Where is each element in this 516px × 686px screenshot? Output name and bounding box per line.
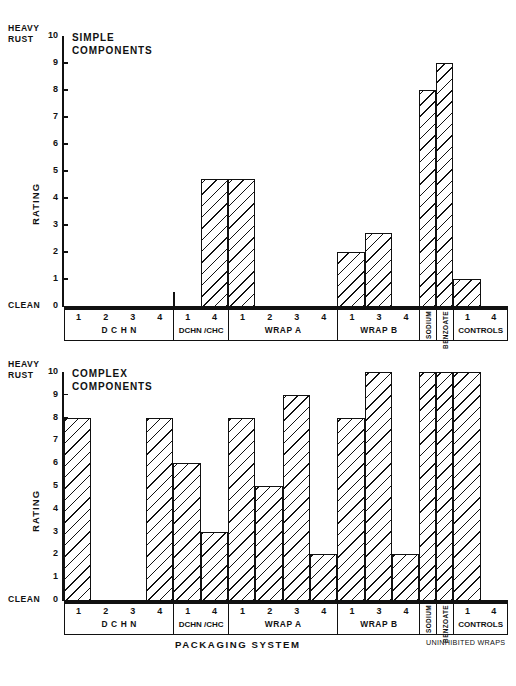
category-number: 2 bbox=[92, 604, 119, 618]
category-number: 4 bbox=[146, 604, 173, 618]
bar bbox=[310, 554, 337, 601]
category-number: 3 bbox=[119, 604, 146, 618]
y-tick-label: 8 bbox=[42, 412, 58, 422]
category-numbers-row: 134 bbox=[338, 604, 419, 618]
x-axis-category-table: 1234D C H N14DCHN /CHC1234WRAP A134WRAP … bbox=[64, 603, 508, 635]
category-group-label: DCHN /CHC bbox=[174, 618, 228, 634]
panel-title: COMPLEXCOMPONENTS bbox=[72, 368, 153, 393]
y-tick-label: 9 bbox=[42, 389, 58, 399]
category-group-label: CONTROLS bbox=[454, 618, 507, 634]
category-group-wrapb: 134WRAP B bbox=[337, 603, 419, 635]
panel-title-line-1: COMPLEX bbox=[72, 368, 153, 381]
category-numbers-row: 1234 bbox=[229, 604, 337, 618]
category-number: 4 bbox=[481, 604, 507, 618]
category-group-label: WRAP B bbox=[338, 618, 419, 634]
y-tick-label: 10 bbox=[42, 366, 58, 376]
bar bbox=[283, 395, 310, 602]
bar bbox=[173, 463, 200, 601]
bar bbox=[436, 372, 453, 601]
category-number: 1 bbox=[65, 604, 92, 618]
category-numbers-row: 14 bbox=[174, 604, 228, 618]
rust-text: RUST bbox=[8, 370, 39, 381]
y-tick-label: 2 bbox=[42, 548, 58, 558]
y-tick-label: 5 bbox=[42, 480, 58, 490]
category-group-label: WRAP A bbox=[229, 618, 337, 634]
bar bbox=[255, 486, 282, 601]
y-tick-label: 6 bbox=[42, 457, 58, 467]
chart-panel-complex: 109876543210HEAVYRUSTCLEANRATINGCOMPLEXC… bbox=[0, 0, 516, 686]
y-axis-label: RATING bbox=[30, 489, 41, 531]
bar bbox=[201, 532, 228, 602]
category-number: 3 bbox=[283, 604, 310, 618]
category-numbers-row: 14 bbox=[454, 604, 507, 618]
uninhibited-wraps-note: UNINHIBITED WRAPS bbox=[421, 638, 510, 647]
bar bbox=[64, 418, 91, 602]
y-tick-label: 7 bbox=[42, 434, 58, 444]
x-axis-title: PACKAGING SYSTEM bbox=[175, 639, 301, 650]
category-group-label: SODIUM bbox=[424, 604, 433, 634]
category-number: 4 bbox=[310, 604, 337, 618]
y-tick-label: 1 bbox=[42, 571, 58, 581]
bar bbox=[228, 418, 255, 602]
category-number: 4 bbox=[201, 604, 228, 618]
bar bbox=[453, 372, 480, 601]
category-group-dchn: 1234D C H N bbox=[64, 603, 173, 635]
category-numbers-row: 1234 bbox=[65, 604, 173, 618]
category-group-dchnchc: 14DCHN /CHC bbox=[173, 603, 228, 635]
y-axis-top-annotation: HEAVYRUST bbox=[8, 359, 39, 380]
category-number: 1 bbox=[229, 604, 256, 618]
category-number: 1 bbox=[174, 604, 201, 618]
y-tick-label: 0 bbox=[42, 594, 58, 604]
category-group-sodium: SODIUM bbox=[419, 603, 436, 635]
y-tick bbox=[64, 394, 68, 395]
category-number: 2 bbox=[256, 604, 283, 618]
category-number: 1 bbox=[454, 604, 480, 618]
bar bbox=[392, 554, 419, 601]
bar bbox=[419, 372, 436, 601]
category-group-benzoate: BENZOATE bbox=[436, 603, 453, 635]
category-number: 3 bbox=[365, 604, 392, 618]
bar bbox=[337, 418, 364, 602]
category-number: 4 bbox=[392, 604, 419, 618]
y-axis-bottom-annotation: CLEAN bbox=[8, 594, 40, 604]
category-group-label: D C H N bbox=[65, 618, 173, 634]
panel-title-line-2: COMPONENTS bbox=[72, 381, 153, 394]
y-tick-label: 3 bbox=[42, 526, 58, 536]
heavy-text: HEAVY bbox=[8, 359, 39, 370]
category-group-wrapa: 1234WRAP A bbox=[228, 603, 337, 635]
bar bbox=[146, 418, 173, 602]
bar bbox=[365, 372, 392, 601]
y-tick-label: 4 bbox=[42, 503, 58, 513]
category-number: 1 bbox=[338, 604, 365, 618]
category-group-controls: 14CONTROLS bbox=[453, 603, 508, 635]
figure-root: 109876543210HEAVYRUSTCLEANRATINGSIMPLECO… bbox=[0, 0, 516, 686]
